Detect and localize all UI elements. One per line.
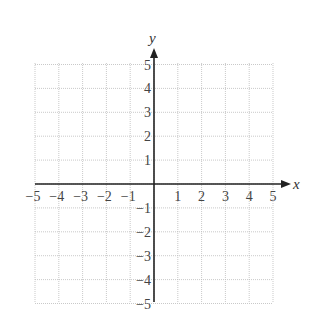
x-axis-arrow-icon (281, 180, 291, 188)
y-axis-label: y (147, 30, 156, 46)
y-tick-label: 2 (144, 129, 151, 144)
x-axis-label: x (292, 176, 300, 192)
y-tick-label: 3 (144, 105, 151, 120)
x-tick-labels: −5−4−3−2−112345 (26, 189, 277, 204)
y-tick-label: −1 (136, 201, 151, 216)
y-tick-label: 1 (144, 153, 151, 168)
y-tick-label: −3 (136, 249, 151, 264)
x-tick-label: 2 (198, 189, 205, 204)
x-tick-label: −4 (49, 189, 64, 204)
x-tick-label: −3 (73, 189, 88, 204)
x-tick-label: −1 (121, 189, 136, 204)
y-tick-label: −5 (136, 297, 151, 312)
coordinate-plane: x y −5−4−3−2−112345 54321−1−2−3−4−5 (0, 0, 313, 322)
x-tick-label: −2 (97, 189, 112, 204)
x-tick-label: 4 (246, 189, 253, 204)
y-tick-label: 5 (144, 58, 151, 73)
x-tick-label: 5 (270, 189, 277, 204)
y-tick-label: 4 (144, 81, 151, 96)
x-tick-label: 3 (222, 189, 229, 204)
y-tick-label: −4 (136, 273, 151, 288)
x-tick-label: 1 (174, 189, 181, 204)
y-axis-arrow-icon (150, 48, 158, 58)
y-tick-label: −2 (136, 225, 151, 240)
x-tick-label: −5 (26, 189, 41, 204)
